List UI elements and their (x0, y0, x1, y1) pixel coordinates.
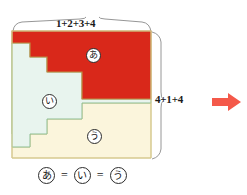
top-brace-left-arc (13, 17, 86, 31)
equation-term-i: い (74, 167, 91, 184)
equation-term-u: う (110, 167, 127, 184)
right-arrow-path (212, 93, 241, 111)
region-a-label: あ (86, 48, 101, 63)
region-i-label: い (42, 94, 57, 109)
region-u-label: う (87, 129, 102, 144)
right-arrow-icon (212, 92, 242, 112)
equation-term-a: あ (38, 167, 55, 184)
top-brace-right-arc (99, 17, 151, 32)
equation-row: あ = い = う (38, 167, 127, 184)
right-brace-bottom-arc (152, 101, 163, 159)
diagram-canvas: 1+2+3+4 4+1+4 あ い う あ = い = う (0, 0, 247, 195)
equation-operator-2: = (97, 168, 104, 183)
right-brace-top-arc (152, 32, 163, 99)
staircase-figure (0, 0, 247, 195)
equation-operator-1: = (61, 168, 68, 183)
